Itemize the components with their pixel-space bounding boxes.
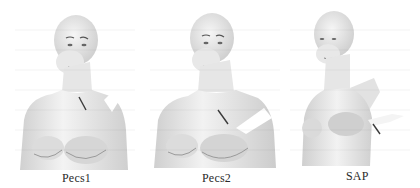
mannequin-illustration-pecs1 [0,0,150,188]
caption-pecs1: Pecs1 [62,171,91,186]
panel-pecs2: Pecs2 [140,0,290,188]
caption-sap: SAP [346,169,369,184]
mannequin-illustration-pecs2 [140,0,290,188]
panel-sap: SAP [280,0,420,188]
caption-pecs2: Pecs2 [202,171,231,186]
needle-icon [373,124,380,134]
panel-pecs1: Pecs1 [0,0,150,188]
mannequin-illustration-sap [280,0,420,188]
